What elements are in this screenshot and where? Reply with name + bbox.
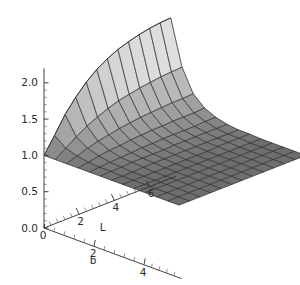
l-axis-line [44, 176, 176, 228]
z-axis-tick-label-3: 1.5 [21, 113, 38, 125]
z-axis-tick-label-0: 0.0 [21, 222, 38, 234]
plot-canvas: 0.0 0.5 1.0 1.5 2.0 2 4 6 L 0 2 4 b [0, 0, 300, 285]
l-axis-minor-tick [91, 205, 93, 209]
b-axis-minor-tick [74, 235, 75, 239]
l-axis-tick [111, 194, 114, 200]
b-axis-minor-tick [84, 239, 85, 243]
b-axis-minor-tick [134, 257, 135, 261]
b-axis-minor-tick [167, 269, 168, 273]
b-axis-minor-tick [104, 246, 105, 250]
b-axis-tick [144, 258, 145, 264]
l-axis-title: L [100, 221, 106, 233]
l-axis-minor-tick [120, 194, 122, 198]
b-axis-minor-tick [124, 253, 125, 257]
l-axis-tick-label-6: 6 [148, 187, 155, 199]
b-axis-minor-tick [64, 231, 65, 235]
b-axis-tick-label-4: 4 [140, 266, 147, 278]
l-axis-minor-tick [49, 221, 51, 225]
b-axis-title: b [90, 254, 97, 266]
l-axis-tick-label-2: 2 [77, 215, 84, 227]
b-axis-tick [94, 240, 95, 246]
z-axis-tick-label-4: 2.0 [21, 76, 38, 88]
b-axis-minor-tick [152, 264, 153, 268]
l-axis-minor-tick [127, 191, 129, 195]
l-axis-tick-label-4: 4 [113, 201, 120, 213]
z-axis-tick-label-2: 1.0 [21, 149, 38, 161]
l-axis-minor-tick [106, 199, 108, 203]
l-axis-minor-tick [98, 202, 100, 206]
l-axis-tick [76, 208, 79, 214]
b-axis-line [44, 228, 182, 279]
surface-plot-figure: 0.0 0.5 1.0 1.5 2.0 2 4 6 L 0 2 4 b [0, 0, 300, 285]
b-axis-minor-tick [54, 228, 55, 232]
b-axis-minor-tick [174, 272, 175, 276]
b-axis-minor-tick [159, 266, 160, 270]
b-axis-tick-label-0: 0 [40, 229, 47, 241]
b-axis-minor-tick [114, 250, 115, 254]
l-axis-minor-tick [70, 213, 72, 217]
z-axis-tick-label-1: 0.5 [21, 185, 38, 197]
l-axis-minor-tick [56, 219, 58, 223]
surface-mesh [44, 18, 300, 205]
l-axis-minor-tick [84, 208, 86, 212]
l-axis-minor-tick [63, 216, 65, 220]
